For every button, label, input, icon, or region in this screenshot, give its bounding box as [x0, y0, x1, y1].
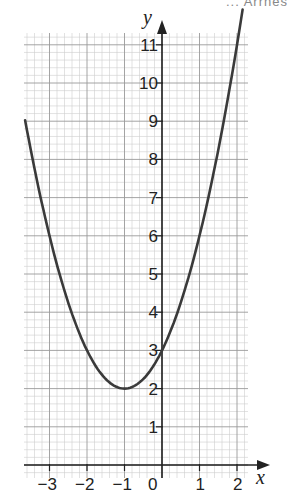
y-tick-label: 7: [149, 189, 158, 208]
y-tick-label: 9: [149, 112, 158, 131]
minor-grid: [24, 33, 248, 478]
y-tick-label: 3: [149, 341, 158, 360]
x-axis-label: x: [255, 466, 265, 488]
x-tick-label: 0: [148, 475, 157, 494]
quadratic-graph: −3−2−10121234567891011 x y: [0, 0, 288, 495]
tick-labels: −3−2−10121234567891011: [38, 36, 243, 494]
x-tick-label: 2: [233, 475, 242, 494]
y-tick-label: 8: [149, 150, 158, 169]
parabola-curve: [25, 10, 243, 389]
y-tick-label: 4: [149, 303, 158, 322]
y-tick-label: 10: [139, 74, 158, 93]
y-tick-label: 11: [140, 36, 158, 55]
y-tick-label: 6: [149, 227, 158, 246]
y-tick-label: 2: [149, 380, 158, 399]
y-tick-label: 1: [149, 418, 158, 437]
x-tick-label: −3: [38, 475, 57, 494]
x-tick-label: −2: [75, 475, 94, 494]
y-tick-label: 5: [149, 265, 158, 284]
y-axis-label: y: [141, 6, 152, 29]
x-tick-label: 1: [196, 475, 205, 494]
x-tick-label: −1: [113, 475, 132, 494]
axis-ticks: [50, 45, 238, 471]
